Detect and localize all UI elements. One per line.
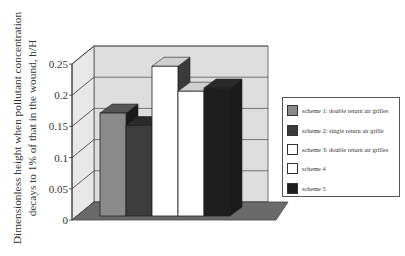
legend-swatch: [287, 125, 298, 136]
bar-5: [204, 88, 230, 216]
legend-label: scheme 2: single return air grille: [302, 127, 384, 134]
bar-1: [100, 113, 126, 216]
y-tick-label: 0.05: [49, 183, 69, 195]
legend-label: scheme 3: double return air grilles: [302, 146, 388, 153]
legend-swatch: [287, 144, 298, 155]
bar-3: [152, 66, 178, 216]
y-axis-label-line-2: decays to 1% of that in the wound, h/H: [25, 3, 40, 253]
legend-item-scheme-2: scheme 2: single return air grille: [287, 120, 399, 139]
legend-label: scheme 1: double return air grilles: [302, 107, 388, 114]
y-axis-label: Dimensionless height when pollutant conc…: [2, 0, 48, 256]
bar-2: [126, 126, 152, 216]
bar-4: [178, 91, 204, 216]
legend-swatch: [287, 163, 298, 174]
y-tick-label: 0.1: [54, 152, 68, 164]
legend-label: scheme 4: [302, 165, 326, 172]
legend-swatch: [287, 105, 298, 116]
y-tick-label: 0: [63, 214, 69, 226]
legend-item-scheme-3: scheme 3: double return air grilles: [287, 140, 399, 159]
bar-side: [230, 79, 242, 216]
legend: scheme 1: double return air grilles sche…: [282, 97, 400, 197]
legend-item-scheme-4: scheme 4: [287, 159, 399, 178]
y-tick-label: 0.2: [54, 89, 68, 101]
legend-item-scheme-5: scheme 5: [287, 179, 399, 198]
y-axis-label-line-1: Dimensionless height when pollutant conc…: [10, 3, 25, 253]
y-tick-label: 0.15: [49, 120, 69, 132]
legend-item-scheme-1: scheme 1: double return air grilles: [287, 101, 399, 120]
y-tick-label: 0.25: [49, 58, 69, 70]
legend-swatch: [287, 183, 298, 194]
side-wall: [72, 46, 94, 220]
legend-label: scheme 5: [302, 185, 326, 192]
